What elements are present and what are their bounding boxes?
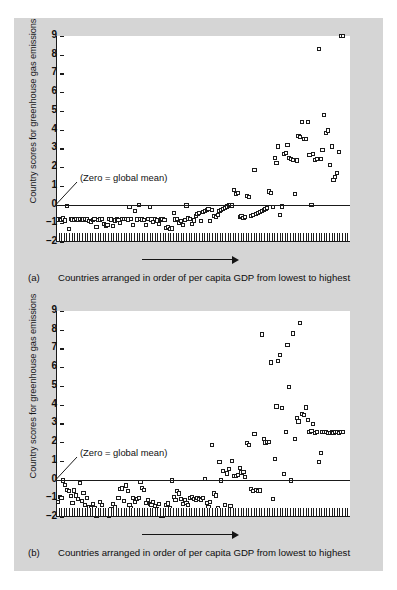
y-tick-mark bbox=[60, 223, 64, 224]
data-point bbox=[304, 405, 308, 409]
data-point bbox=[241, 470, 245, 474]
data-point bbox=[341, 430, 345, 434]
data-point bbox=[177, 491, 181, 495]
data-point bbox=[148, 205, 152, 209]
y-tick-label: 5 bbox=[41, 104, 57, 115]
data-point bbox=[291, 331, 295, 335]
data-point bbox=[298, 321, 302, 325]
y-tick-label: 8 bbox=[41, 323, 57, 334]
data-point bbox=[111, 224, 115, 228]
y-tick-mark bbox=[60, 348, 64, 349]
y-tick-label: –2 bbox=[41, 510, 57, 521]
data-point bbox=[70, 501, 74, 505]
data-point bbox=[280, 406, 284, 410]
y-tick-4: 4 bbox=[34, 405, 64, 406]
y-tick-mark bbox=[60, 55, 64, 56]
y-tick-label: –2 bbox=[41, 235, 57, 246]
data-point bbox=[330, 144, 334, 148]
data-point bbox=[186, 503, 190, 507]
scatter-plot-b: Country scores for greenhouse gas emissi… bbox=[14, 293, 383, 531]
y-tick-label: 3 bbox=[41, 416, 57, 427]
data-point bbox=[300, 120, 304, 124]
data-point bbox=[326, 128, 330, 132]
y-tick-mark bbox=[60, 92, 64, 93]
arrow-head bbox=[232, 531, 239, 539]
data-point bbox=[230, 459, 234, 463]
data-point bbox=[81, 491, 85, 495]
y-tick-mark bbox=[60, 186, 64, 187]
data-point bbox=[319, 157, 323, 161]
data-point bbox=[271, 497, 275, 501]
data-point bbox=[144, 223, 148, 227]
y-tick-5: 5 bbox=[34, 111, 64, 112]
data-point bbox=[247, 443, 251, 447]
y-tick-mark bbox=[60, 242, 64, 243]
y-tick-mark bbox=[60, 367, 64, 368]
y-tick-label: 1 bbox=[41, 454, 57, 465]
zero-annotation-a: (Zero = global mean) bbox=[80, 172, 167, 183]
data-point bbox=[284, 430, 288, 434]
caption-text-a: Countries arranged in order of per capit… bbox=[58, 272, 350, 283]
arrow-shaft bbox=[142, 259, 233, 260]
data-point bbox=[317, 47, 321, 51]
x-axis-hatched-band-b bbox=[56, 508, 350, 517]
y-tick-mark bbox=[60, 111, 64, 112]
y-tick-2: 2 bbox=[34, 442, 64, 443]
y-tick-7: 7 bbox=[34, 73, 64, 74]
data-point bbox=[105, 223, 109, 227]
y-tick-mark bbox=[60, 442, 64, 443]
y-tick-neg1: –1 bbox=[34, 223, 64, 224]
data-point bbox=[216, 213, 220, 217]
y-tick-neg2: –2 bbox=[34, 242, 64, 243]
data-point bbox=[162, 218, 166, 222]
y-tick-4: 4 bbox=[34, 130, 64, 131]
data-point bbox=[322, 113, 326, 117]
data-point bbox=[271, 205, 275, 209]
y-tick-3: 3 bbox=[34, 423, 64, 424]
data-point bbox=[157, 502, 161, 506]
caption-text-b: Countries arranged in order of per capit… bbox=[58, 547, 350, 558]
y-tick-label: 1 bbox=[41, 179, 57, 190]
y-tick-mark bbox=[60, 311, 64, 312]
plot-area-a: –2–10123456789 (Zero = global mean) bbox=[56, 36, 350, 242]
data-point bbox=[63, 483, 67, 487]
plot-area-b: –2–10123456789 (Zero = global mean) bbox=[56, 311, 350, 517]
y-tick-mark bbox=[60, 405, 64, 406]
data-point bbox=[267, 440, 271, 444]
zero-reference-line-a bbox=[56, 205, 350, 206]
y-tick-label: 4 bbox=[41, 123, 57, 134]
data-point bbox=[116, 496, 120, 500]
y-tick-mark bbox=[60, 148, 64, 149]
data-point bbox=[133, 209, 137, 213]
data-point bbox=[274, 161, 278, 165]
data-point bbox=[142, 488, 146, 492]
data-point bbox=[296, 419, 300, 423]
data-point bbox=[284, 151, 288, 155]
y-tick-label: 8 bbox=[41, 48, 57, 59]
data-point bbox=[210, 208, 214, 212]
y-tick-mark bbox=[60, 517, 64, 518]
data-point bbox=[100, 217, 104, 221]
direction-arrow-a bbox=[142, 255, 240, 265]
data-point bbox=[252, 168, 256, 172]
data-point bbox=[69, 494, 73, 498]
data-point bbox=[282, 472, 286, 476]
data-point bbox=[59, 496, 63, 500]
data-point bbox=[78, 481, 82, 485]
data-point bbox=[67, 489, 71, 493]
data-point bbox=[335, 171, 339, 175]
y-tick-7: 7 bbox=[34, 348, 64, 349]
data-point bbox=[56, 500, 60, 504]
data-point bbox=[265, 206, 269, 210]
data-point bbox=[317, 460, 321, 464]
data-point bbox=[85, 496, 89, 500]
y-tick-1: 1 bbox=[34, 461, 64, 462]
y-tick-mark bbox=[60, 461, 64, 462]
data-point bbox=[269, 360, 273, 364]
data-point bbox=[192, 218, 196, 222]
data-point bbox=[302, 413, 306, 417]
data-point bbox=[269, 191, 273, 195]
data-point bbox=[118, 221, 122, 225]
y-tick-neg2: –2 bbox=[34, 517, 64, 518]
y-tick-label: 9 bbox=[41, 29, 57, 40]
